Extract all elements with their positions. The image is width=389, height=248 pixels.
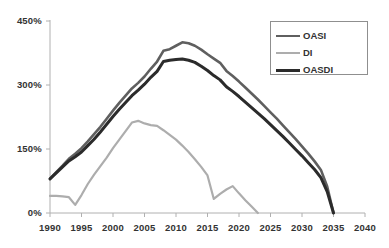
- y-axis-label: 0%: [0, 207, 42, 218]
- legend-label: OASDI: [303, 65, 333, 75]
- chart-container: 0%150%300%450% 1990199520002005201020152…: [0, 0, 389, 248]
- legend-swatch-icon: [276, 35, 300, 37]
- y-axis-label: 450%: [0, 15, 42, 26]
- y-axis-label: 300%: [0, 79, 42, 90]
- legend-swatch-icon: [276, 69, 300, 72]
- chart-legend: OASIDIOASDI: [270, 21, 368, 75]
- legend-item-di[interactable]: DI: [276, 46, 313, 60]
- legend-item-oasi[interactable]: OASI: [276, 29, 326, 43]
- legend-label: OASI: [303, 31, 326, 41]
- legend-item-oasdi[interactable]: OASDI: [276, 63, 333, 77]
- legend-swatch-icon: [276, 52, 300, 54]
- x-axis-label: 2040: [345, 222, 385, 233]
- series-line-di: [50, 121, 258, 213]
- legend-label: DI: [303, 48, 313, 58]
- y-axis-label: 150%: [0, 143, 42, 154]
